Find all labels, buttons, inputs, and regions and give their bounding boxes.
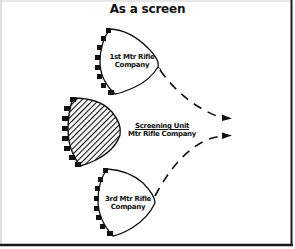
advance-arrow-top bbox=[160, 70, 232, 121]
unit-label-screening-unit: Screening Unit Mtr Rifle Company bbox=[127, 122, 197, 138]
diagram-frame: As a screen 1st Mtr Rifle Company Screen… bbox=[0, 0, 295, 249]
unit-label-line1: 1st Mtr Rifle bbox=[104, 53, 160, 61]
unit-label-line2: Company bbox=[104, 61, 160, 69]
unit-label-line2: Company bbox=[100, 203, 156, 211]
unit-label-line1: Screening Unit bbox=[127, 122, 197, 130]
unit-label-line2: Mtr Rifle Company bbox=[127, 130, 197, 138]
unit-label-line1: 3rd Mtr Rifle bbox=[100, 195, 156, 203]
diagram-title: As a screen bbox=[0, 2, 295, 16]
unit-symbol-screening-unit bbox=[62, 97, 120, 167]
unit-label-1st-company: 1st Mtr Rifle Company bbox=[104, 53, 160, 69]
arrowhead-icon bbox=[222, 133, 232, 140]
unit-label-3rd-company: 3rd Mtr Rifle Company bbox=[100, 195, 156, 211]
arrowhead-icon bbox=[222, 115, 232, 122]
advance-arrow-bottom bbox=[155, 133, 232, 197]
